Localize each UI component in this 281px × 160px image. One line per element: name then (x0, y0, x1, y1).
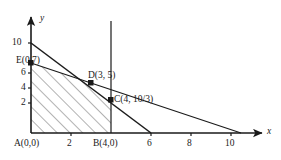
y-tick-label-6: 6 (21, 68, 26, 78)
graph-figure: 10 6 4 2 2 6 8 10 y x A(0,0) B(4,0) C(4,… (0, 0, 281, 160)
x-tick-label-10: 10 (225, 139, 235, 149)
point-label-D: D(3, 5) (88, 71, 115, 81)
y-tick-label-10: 10 (12, 38, 22, 48)
y-tick-label-4: 4 (21, 83, 26, 93)
y-axis-label: y (40, 14, 44, 24)
vertex-marker-C (108, 97, 114, 103)
x-tick-label-8: 8 (187, 139, 192, 149)
plot-canvas (0, 0, 281, 160)
x-axis-label: x (267, 127, 271, 137)
x-tick-label-2: 2 (67, 139, 72, 149)
point-label-B: B(4,0) (93, 139, 118, 149)
point-label-E: E(0,7) (16, 56, 40, 66)
point-label-A: A(0,0) (14, 139, 39, 149)
vertex-marker-D (88, 80, 94, 86)
y-tick-label-2: 2 (21, 98, 26, 108)
point-label-C: C(4, 10/3) (114, 95, 153, 105)
x-tick-label-6: 6 (147, 139, 152, 149)
